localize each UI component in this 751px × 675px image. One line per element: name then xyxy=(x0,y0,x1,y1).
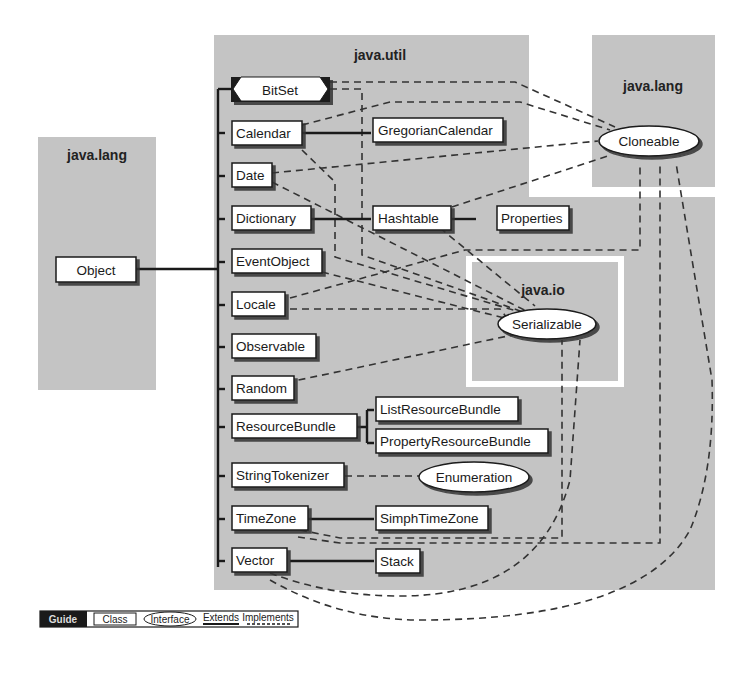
class-label: EventObject xyxy=(236,254,310,269)
legend-class-label: Class xyxy=(102,614,127,625)
class-label: StringTokenizer xyxy=(236,468,330,483)
class-label: Stack xyxy=(380,554,414,569)
class-label: PropertyResourceBundle xyxy=(380,434,531,449)
interface-label: Cloneable xyxy=(619,134,680,149)
package-title: java.util xyxy=(353,47,406,63)
class-label: ResourceBundle xyxy=(236,419,336,434)
class-label: Object xyxy=(76,263,115,278)
class-label: Dictionary xyxy=(236,211,296,226)
class-label: Locale xyxy=(236,297,276,312)
class-label: ListResourceBundle xyxy=(380,402,501,417)
class-label: Random xyxy=(236,381,287,396)
legend-extends-label: Extends xyxy=(203,612,239,623)
class-label: Calendar xyxy=(236,126,291,141)
package-title: java.lang xyxy=(622,78,683,94)
class-label: SimphTimeZone xyxy=(380,511,479,526)
class-label: Observable xyxy=(236,339,305,354)
class-label: Properties xyxy=(501,211,563,226)
legend-title: Guide xyxy=(49,614,78,625)
legend-guide: Guide Class Interface Extends Implements xyxy=(40,611,298,627)
package-java-lang-right xyxy=(592,35,715,187)
package-title: java.io xyxy=(520,282,565,298)
legend-implements-label: Implements xyxy=(242,612,294,623)
interface-label: Enumeration xyxy=(436,470,513,485)
class-label: Hashtable xyxy=(378,211,439,226)
class-label: Vector xyxy=(236,553,275,568)
interface-label: Serializable xyxy=(512,317,582,332)
package-title: java.lang xyxy=(66,147,127,163)
class-label: TimeZone xyxy=(236,511,296,526)
class-hierarchy-diagram: java.lang java.util java.lang java.io xyxy=(0,0,751,675)
class-label: BitSet xyxy=(262,83,298,98)
class-label: Date xyxy=(236,168,265,183)
legend-interface-label: Interface xyxy=(151,614,190,625)
class-label: GregorianCalendar xyxy=(378,123,493,138)
